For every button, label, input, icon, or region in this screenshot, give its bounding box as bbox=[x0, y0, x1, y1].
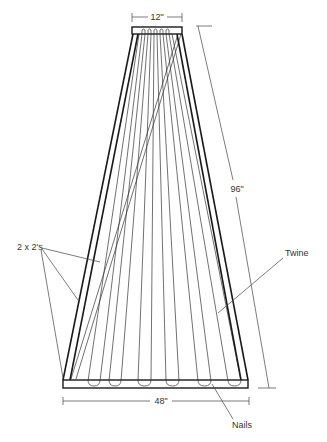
bottom-width-dimension: 48" bbox=[63, 396, 249, 406]
twine-strand bbox=[160, 34, 179, 381]
right-leg-outer bbox=[182, 34, 248, 380]
twine-strand bbox=[166, 34, 211, 381]
twine-strands bbox=[88, 34, 241, 381]
height-label: 96" bbox=[230, 184, 243, 194]
frame-members-label: 2 x 2's bbox=[17, 242, 43, 252]
twine-label: Twine bbox=[285, 248, 309, 258]
bottom-crossbar bbox=[63, 380, 248, 388]
twine-strand bbox=[100, 34, 142, 381]
diagonal-twine bbox=[71, 34, 178, 379]
twine-strand bbox=[151, 34, 154, 381]
twine-strand bbox=[88, 34, 139, 381]
top-width-dimension: 12" bbox=[132, 12, 182, 22]
twine-callout: Twine bbox=[218, 248, 309, 313]
twine-strand bbox=[169, 34, 228, 381]
height-dimension: 96" bbox=[196, 26, 276, 388]
right-leg-inner bbox=[177, 34, 241, 380]
twine-strand bbox=[121, 34, 148, 381]
top-width-label: 12" bbox=[150, 12, 163, 22]
bottom-width-label: 48" bbox=[154, 396, 167, 406]
twine-strand bbox=[172, 34, 241, 381]
trellis-diagram: 12" 48" 96" 2 x 2's Twine Nails bbox=[0, 0, 327, 442]
twine-strand bbox=[163, 34, 198, 381]
left-leg-outer bbox=[63, 34, 133, 380]
nails-callout: Nails bbox=[212, 384, 253, 430]
nails-label: Nails bbox=[232, 420, 253, 430]
left-leg-inner bbox=[70, 34, 138, 380]
